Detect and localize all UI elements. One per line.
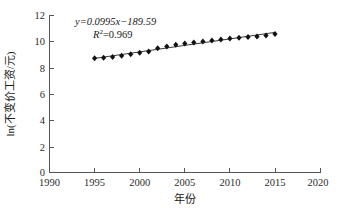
y-tick-label-6: 6 [40, 89, 45, 100]
x-axis-ticks [50, 168, 321, 173]
chart-figure: 12 10 8 6 4 2 0 1990 1995 2000 2005 2010… [0, 0, 339, 208]
y-tick-label-8: 8 [40, 63, 45, 74]
y-tick-label-2: 2 [40, 142, 45, 153]
y-axis-ticks [50, 16, 55, 173]
y-tick-label-12: 12 [35, 10, 46, 21]
data-point [227, 35, 232, 41]
y-tick-label-4: 4 [40, 115, 46, 126]
equation-text: y=0.0995x−189.59 [74, 16, 157, 27]
data-point [92, 55, 97, 61]
y-axis-title: ln(不变价工资/元) [3, 51, 17, 136]
data-point [200, 39, 205, 45]
x-tick-label-2015: 2015 [265, 177, 286, 188]
data-point [155, 45, 160, 51]
data-point [128, 51, 133, 57]
data-point [146, 49, 151, 55]
x-tick-label-2020: 2020 [308, 177, 329, 188]
r-squared-value: =0.969 [103, 29, 133, 40]
data-point [119, 53, 124, 59]
x-axis-title: 年份 [174, 192, 196, 205]
x-tick-label-2005: 2005 [174, 177, 195, 188]
data-point [137, 50, 142, 56]
x-axis-tick-labels: 1990 1995 2000 2005 2010 2015 2020 [39, 177, 329, 188]
scatter-plot-svg: 12 10 8 6 4 2 0 1990 1995 2000 2005 2010… [0, 0, 339, 208]
x-tick-label-1995: 1995 [84, 177, 105, 188]
data-point [218, 37, 223, 43]
r-squared-annotation: R2=0.969 [92, 28, 132, 40]
data-point [272, 31, 277, 37]
data-point [209, 37, 214, 43]
data-point [110, 54, 115, 60]
data-point [101, 55, 106, 61]
regression-equation-annotation: y=0.0995x−189.59 [74, 16, 157, 27]
y-tick-label-10: 10 [35, 36, 46, 47]
data-point [245, 34, 250, 40]
data-point [236, 35, 241, 41]
y-axis-tick-labels: 12 10 8 6 4 2 0 [35, 10, 46, 178]
x-tick-label-2000: 2000 [129, 177, 150, 188]
x-tick-label-2010: 2010 [219, 177, 240, 188]
x-tick-label-1990: 1990 [39, 177, 60, 188]
